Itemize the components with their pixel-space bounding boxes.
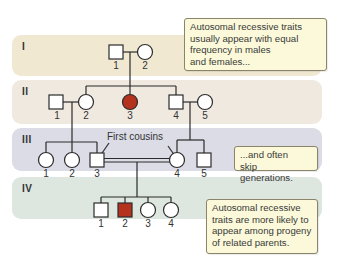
callout-equal-frequency: Autosomal recessive traits usually appea…	[184, 18, 327, 71]
individual-IV-3-female	[141, 203, 156, 218]
individual-II-1-male	[49, 95, 63, 109]
callout-3-line-4: of related parents.	[212, 237, 312, 249]
label-II-2: 2	[83, 110, 89, 121]
label-II-4: 4	[173, 110, 179, 121]
label-II-5: 5	[202, 110, 208, 121]
label-III-4: 4	[174, 168, 180, 179]
callout-related-parents: Autosomal recessive traits are more like…	[206, 199, 318, 254]
callout-1-line-2: usually appear with equal	[190, 33, 321, 45]
individual-III-2-female	[65, 153, 80, 168]
individual-III-4-female	[170, 153, 185, 168]
individual-II-5-female	[198, 95, 213, 110]
callout-2-line-2: skip generations.	[240, 161, 312, 184]
callout-3-line-1: Autosomal recessive	[212, 202, 312, 214]
callout-1-line-1: Autosomal recessive traits	[190, 21, 321, 33]
individual-II-3-female-affected	[123, 95, 138, 110]
individual-IV-4-female	[164, 203, 179, 218]
individual-IV-1-male	[94, 203, 108, 217]
callout-3-line-3: appear among progeny	[212, 225, 312, 237]
first-cousins-label: First cousins	[107, 131, 163, 142]
callout-1-line-4: and females...	[190, 56, 321, 68]
individual-IV-2-male-affected	[118, 203, 132, 217]
callout-1-line-3: frequency in males	[190, 44, 321, 56]
label-III-2: 2	[69, 168, 75, 179]
label-II-3: 3	[127, 110, 133, 121]
label-III-1: 1	[43, 168, 49, 179]
label-I-2: 2	[142, 60, 148, 71]
label-I-1: 1	[113, 60, 119, 71]
individual-I-2-female	[138, 45, 153, 60]
individual-III-5-male	[197, 153, 211, 167]
individual-I-1-male	[109, 45, 123, 59]
label-III-5: 5	[201, 168, 207, 179]
label-IV-4: 4	[168, 218, 174, 229]
label-II-1: 1	[54, 110, 60, 121]
callout-2-line-1: ...and often	[240, 149, 312, 161]
label-IV-1: 1	[98, 218, 104, 229]
label-IV-3: 3	[145, 218, 151, 229]
label-III-3: 3	[94, 168, 100, 179]
individual-III-1-female	[39, 153, 54, 168]
individual-II-4-male	[169, 95, 183, 109]
individual-III-3-male	[90, 153, 104, 167]
callout-skip-generations: ...and often skip generations.	[234, 146, 318, 171]
label-IV-2: 2	[122, 218, 128, 229]
individual-II-2-female	[79, 95, 94, 110]
callout-3-line-2: traits are more likely to	[212, 214, 312, 226]
